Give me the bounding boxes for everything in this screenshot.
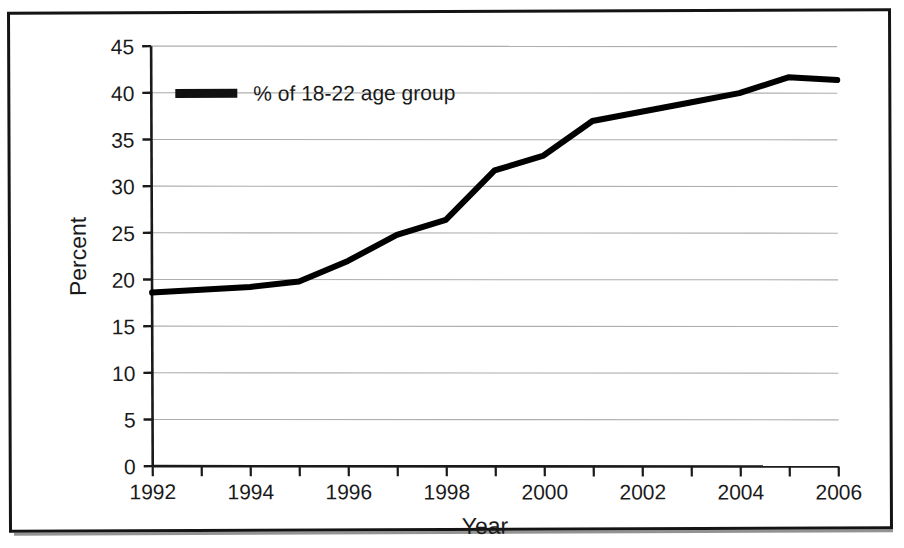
x-tick-label-2004: 2004	[717, 480, 764, 503]
y-tick-label-0: 0	[124, 455, 136, 478]
gridline-20	[152, 277, 838, 283]
x-tick-label-1994: 1994	[227, 480, 274, 503]
legend-label-pct-18-22: % of 18-22 age group	[253, 81, 455, 105]
x-tick-label-1992: 1992	[129, 480, 176, 503]
y-tick-label-10: 10	[112, 362, 135, 385]
y-tick-label-35: 35	[111, 129, 134, 152]
chart-legend: % of 18-22 age group	[175, 81, 455, 105]
gridline-5	[153, 417, 839, 423]
x-tick-label-1998: 1998	[423, 480, 470, 503]
y-axis-line	[151, 46, 153, 466]
chart-screenshot: 051015202530354045 199219941996199820002…	[0, 0, 904, 548]
x-tick-label-1996: 1996	[325, 480, 372, 503]
x-axis-title: Year	[462, 513, 509, 539]
axis-lines	[151, 44, 839, 470]
y-tick-label-40: 40	[111, 82, 134, 105]
gridline-25	[152, 230, 838, 236]
y-axis-title: Percent	[65, 216, 91, 296]
x-tick-label-2002: 2002	[619, 480, 666, 503]
chart-canvas: 051015202530354045 199219941996199820002…	[0, 0, 904, 548]
gridline-35	[151, 137, 837, 143]
data-series-group	[151, 77, 838, 292]
y-tick-label-20: 20	[112, 269, 135, 292]
legend-swatch-pct-18-22	[175, 89, 237, 98]
line-chart-figure: 051015202530354045 199219941996199820002…	[0, 0, 904, 548]
gridline-15	[152, 324, 838, 330]
y-tick-label-5: 5	[124, 409, 136, 432]
y-axis-ticks: 051015202530354045	[111, 35, 153, 478]
y-tick-label-30: 30	[111, 175, 134, 198]
gridline-45	[151, 44, 837, 50]
x-tick-label-2000: 2000	[521, 480, 568, 503]
gridline-10	[152, 370, 838, 376]
x-tick-label-2006: 2006	[815, 480, 862, 503]
gridline-30	[152, 184, 838, 190]
series-line-pct-18-22	[151, 77, 838, 292]
y-tick-label-15: 15	[112, 315, 135, 338]
y-tick-label-45: 45	[111, 35, 134, 58]
y-tick-label-25: 25	[111, 222, 134, 245]
x-axis-ticks: 19921994199619982000200220042006	[129, 463, 862, 506]
